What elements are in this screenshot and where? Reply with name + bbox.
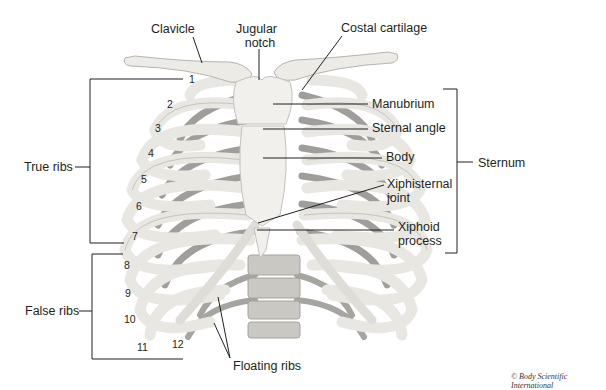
copyright-notice: © Body Scientific International xyxy=(511,372,606,390)
rib-number-2: 2 xyxy=(167,98,173,110)
rib-number-10: 10 xyxy=(124,313,136,325)
rib-number-1: 1 xyxy=(189,73,195,85)
rib-number-7: 7 xyxy=(132,230,138,242)
rib-number-8: 8 xyxy=(124,259,130,271)
label-xiphoid-line2: process xyxy=(398,234,442,248)
label-xiphisternal-joint: Xiphisternal joint xyxy=(387,177,452,205)
rib-number-11: 11 xyxy=(137,341,148,353)
rib-number-3: 3 xyxy=(155,122,161,134)
label-xiphoid-process: Xiphoid process xyxy=(398,220,442,248)
label-true-ribs: True ribs xyxy=(24,160,73,174)
label-sternum: Sternum xyxy=(478,156,525,170)
label-costal-cartilage: Costal cartilage xyxy=(341,21,427,35)
label-xiphoid-line1: Xiphoid xyxy=(398,220,442,234)
clavicles xyxy=(124,52,398,82)
label-clavicle: Clavicle xyxy=(151,22,195,36)
label-jugular-notch-line2: notch xyxy=(236,36,277,50)
rib-number-4: 4 xyxy=(148,147,154,159)
label-false-ribs: False ribs xyxy=(25,304,79,318)
rib-number-9: 9 xyxy=(125,287,131,299)
label-sternal-angle: Sternal angle xyxy=(372,121,446,135)
rib-number-6: 6 xyxy=(136,200,142,212)
vertebral-column xyxy=(248,255,300,338)
label-jugular-notch-line1: Jugular xyxy=(236,22,277,36)
label-floating-ribs: Floating ribs xyxy=(233,359,301,373)
rib-number-5: 5 xyxy=(141,173,147,185)
label-manubrium: Manubrium xyxy=(372,97,435,111)
label-jugular-notch: Jugular notch xyxy=(236,22,277,50)
rib-number-12: 12 xyxy=(172,338,184,350)
label-body: Body xyxy=(386,150,415,164)
label-xiphisternal-line1: Xiphisternal xyxy=(387,177,452,191)
label-xiphisternal-line2: joint xyxy=(387,191,452,205)
